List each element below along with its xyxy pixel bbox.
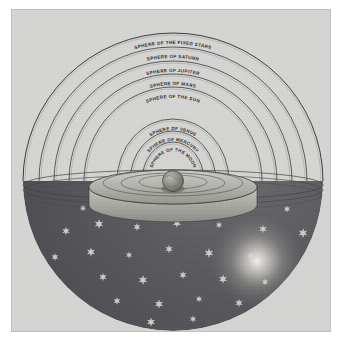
- engraving-plate: SPHERE OF THE FIXED STARSSPHERE OF SATUR…: [11, 9, 331, 332]
- sphere-arc-shell-sun: [86, 89, 260, 181]
- sphere-label-mars: SPHERE OF MARS: [149, 81, 197, 89]
- sphere-arc-saturn: [39, 47, 307, 181]
- sphere-label-jupiter: SPHERE OF JUPITER: [146, 68, 201, 76]
- sphere-label-venus: SPHERE OF VENUS: [149, 126, 198, 137]
- screenshot-root: SPHERE OF THE FIXED STARSSPHERE OF SATUR…: [0, 0, 348, 351]
- cosmos-figure: SPHERE OF THE FIXED STARSSPHERE OF SATUR…: [11, 9, 331, 332]
- sphere-label-fixed-stars: SPHERE OF THE FIXED STARS: [134, 40, 212, 50]
- sphere-label-sun: SPHERE OF THE SUN: [145, 94, 201, 104]
- earth-body: [163, 171, 184, 192]
- sphere-arc-shell-jupiter: [56, 63, 290, 181]
- sphere-arc-sun: [84, 87, 262, 181]
- sphere-label-moon: SPHERE OF THE MOON: [149, 147, 198, 168]
- sphere-labels: SPHERE OF THE FIXED STARSSPHERE OF SATUR…: [134, 40, 212, 168]
- hemisphere-glow: [211, 215, 303, 307]
